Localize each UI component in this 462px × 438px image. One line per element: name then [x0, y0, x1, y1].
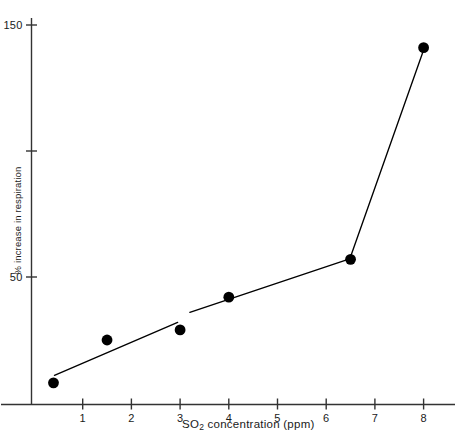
x-axis-title: SO2 concentration (ppm) — [182, 418, 315, 430]
x-axis-title-prefix: SO — [182, 418, 199, 430]
x-axis-tick-label: 8 — [420, 412, 426, 424]
trend-line-segment — [351, 53, 423, 257]
y-axis-tick-label: 150 — [0, 19, 23, 31]
data-points-group — [48, 42, 429, 388]
data-point-marker — [223, 292, 234, 303]
data-point-marker — [418, 42, 429, 53]
trend-line-group — [54, 53, 422, 376]
chart-plot-area — [0, 0, 462, 438]
chart-figure: 50150 12345678 % increase in respiration… — [0, 0, 462, 438]
trend-line-segment — [54, 322, 177, 375]
axes-group — [1, 18, 455, 405]
y-axis-title: % increase in respiration — [12, 141, 23, 301]
x-axis-title-subscript: 2 — [199, 422, 204, 432]
data-point-marker — [102, 335, 113, 346]
x-axis-tick-label: 7 — [372, 412, 378, 424]
trend-line-segment — [190, 259, 348, 312]
data-point-marker — [48, 377, 59, 388]
x-axis-tick-label: 6 — [323, 412, 329, 424]
data-point-marker — [175, 325, 186, 336]
data-point-marker — [345, 254, 356, 265]
x-axis-title-suffix: concentration (ppm) — [204, 418, 314, 430]
x-axis-tick-label: 1 — [80, 412, 86, 424]
x-axis-tick-label: 2 — [128, 412, 134, 424]
